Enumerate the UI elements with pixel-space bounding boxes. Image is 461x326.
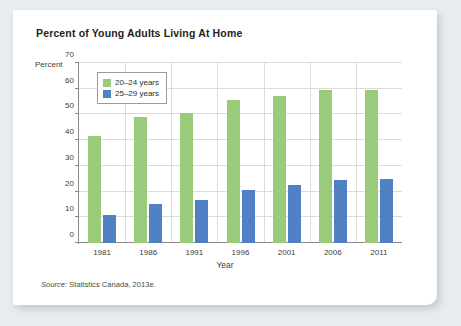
y-tick-label-50: 50 — [65, 101, 74, 110]
legend-swatch-blue — [103, 90, 111, 98]
x-tick-label-1986: 1986 — [139, 248, 157, 257]
bar-2006-20-24 — [319, 90, 332, 243]
bar-2006-25-29 — [334, 180, 347, 243]
y-tick-label-0: 0 — [70, 230, 74, 239]
gridline-y-10 — [79, 216, 402, 217]
legend-swatch-green — [103, 79, 111, 87]
x-tick-label-1981: 1981 — [93, 248, 111, 257]
gridline-x-5 — [310, 63, 311, 243]
y-tick-label-40: 40 — [65, 127, 74, 136]
x-axis-line — [78, 242, 402, 243]
x-tick-label-1996: 1996 — [232, 248, 250, 257]
source-prefix: Source: — [41, 280, 67, 289]
y-tick-label-30: 30 — [65, 152, 74, 161]
y-tick-mark-30 — [75, 165, 79, 166]
x-tick-label-2011: 2011 — [370, 248, 387, 257]
gridline-x-4 — [264, 63, 265, 243]
gridline-y-20 — [79, 191, 402, 192]
gridline-y-40 — [79, 139, 402, 140]
gridline-y-70 — [79, 62, 402, 63]
y-tick-mark-0 — [75, 242, 79, 243]
bar-1996-20-24 — [227, 100, 240, 243]
x-tick-label-2006: 2006 — [324, 248, 342, 257]
legend-label-25-29: 25–29 years — [115, 89, 159, 98]
legend-label-20-24: 20–24 years — [115, 78, 159, 87]
bar-2001-25-29 — [288, 185, 301, 243]
gridline-y-30 — [79, 165, 402, 166]
bar-1981-25-29 — [103, 215, 116, 243]
chart-legend: 20–24 years 25–29 years — [97, 72, 167, 104]
chart-figure: Percent of Young Adults Living At Home P… — [13, 10, 437, 305]
y-tick-mark-40 — [75, 139, 79, 140]
y-tick-mark-50 — [75, 113, 79, 114]
bar-2011-25-29 — [380, 179, 393, 243]
y-tick-mark-60 — [75, 88, 79, 89]
legend-item-20-24: 20–24 years — [103, 77, 159, 88]
figure-card: Percent of Young Adults Living At Home P… — [13, 10, 437, 305]
page-background: Percent of Young Adults Living At Home P… — [0, 0, 461, 326]
bar-1986-25-29 — [149, 204, 162, 243]
y-tick-mark-20 — [75, 191, 79, 192]
x-tick-label-1991: 1991 — [185, 248, 203, 257]
y-tick-label-60: 60 — [65, 75, 74, 84]
y-tick-label-70: 70 — [65, 50, 74, 59]
y-tick-label-10: 10 — [65, 204, 74, 213]
legend-item-25-29: 25–29 years — [103, 88, 159, 99]
source-note: Source: Statistics Canada, 2013e. — [41, 280, 156, 289]
gridline-y-50 — [79, 113, 402, 114]
bar-1991-25-29 — [195, 200, 208, 243]
source-text: Statistics Canada, 2013e. — [69, 280, 156, 289]
bar-1981-20-24 — [88, 136, 101, 243]
bar-2011-20-24 — [365, 90, 378, 243]
bar-1996-25-29 — [242, 190, 255, 243]
gridline-x-2 — [171, 63, 172, 243]
plot-area: 010203040506070 198119861991199620012006… — [79, 63, 402, 243]
bar-2001-20-24 — [273, 96, 286, 243]
bar-1991-20-24 — [180, 113, 193, 243]
x-tick-label-2001: 2001 — [278, 248, 296, 257]
y-tick-mark-10 — [75, 216, 79, 217]
y-tick-label-20: 20 — [65, 178, 74, 187]
x-axis-title: Year — [13, 260, 437, 270]
gridline-x-3 — [217, 63, 218, 243]
chart-title: Percent of Young Adults Living At Home — [36, 27, 242, 39]
y-axis-title: Percent — [35, 60, 63, 69]
gridline-x-6 — [356, 63, 357, 243]
y-tick-mark-70 — [75, 62, 79, 63]
bar-1986-20-24 — [134, 117, 147, 243]
